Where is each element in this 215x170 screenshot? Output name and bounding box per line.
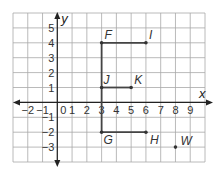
x-tick-label: 9	[187, 104, 193, 116]
x-tick-label: 2	[84, 104, 90, 116]
y-tick-label: −3	[42, 141, 55, 153]
x-tick-label: 7	[158, 104, 164, 116]
point-label-F: F	[105, 28, 113, 42]
point-K	[129, 86, 133, 90]
y-tick-label: −2	[42, 126, 55, 138]
point-H	[144, 130, 148, 134]
x-axis-arrow-right-icon	[206, 99, 213, 105]
y-tick-label: 4	[48, 37, 54, 49]
y-tick-label: 1	[48, 82, 54, 94]
y-tick-label: −1	[42, 111, 55, 123]
x-tick-label: 5	[128, 104, 134, 116]
point-label-I: I	[149, 28, 153, 42]
point-label-G: G	[104, 133, 113, 147]
point-label-H: H	[150, 133, 159, 147]
y-tick-label: 3	[48, 52, 54, 64]
x-axis-label: x	[198, 86, 206, 101]
x-tick-label: −2	[21, 104, 34, 116]
x-tick-label: 8	[172, 104, 178, 116]
x-axis-arrow-left-icon	[13, 99, 20, 105]
y-tick-label: 5	[48, 22, 54, 34]
point-label-K: K	[134, 73, 143, 87]
x-tick-label: 1	[69, 104, 75, 116]
y-axis-arrow-down-icon	[54, 160, 60, 167]
x-tick-label: 0	[60, 104, 66, 116]
x-tick-label: 4	[113, 104, 119, 116]
point-label-W: W	[180, 134, 193, 148]
point-W	[174, 145, 178, 149]
coordinate-plane: x y −2−1012345678954321−1−2−3 FIJKGHW	[0, 0, 215, 170]
x-tick-label: 6	[143, 104, 149, 116]
point-label-J: J	[103, 73, 111, 87]
point-I	[144, 41, 148, 45]
point-F	[100, 41, 104, 45]
y-tick-label: 2	[48, 67, 54, 79]
